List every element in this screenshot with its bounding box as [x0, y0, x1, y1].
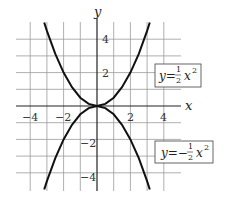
equation-label-negative: y=− 1 2 x 2 — [155, 141, 213, 163]
svg-text:2: 2 — [188, 153, 193, 162]
svg-text:x: x — [184, 69, 191, 83]
y-tick-label: 4 — [102, 33, 109, 46]
y-tick-label: 2 — [102, 67, 109, 80]
parabola-graph: x y −4 −2 2 4 4 2 −2 −4 y= 1 2 x 2 y=− 1… — [0, 0, 230, 206]
y-tick-label: −2 — [80, 137, 96, 150]
svg-text:2: 2 — [176, 76, 181, 85]
x-tick-label: −2 — [55, 111, 71, 124]
svg-text:x: x — [196, 146, 203, 160]
x-tick-label: 2 — [127, 111, 134, 124]
svg-text:2: 2 — [204, 143, 209, 152]
svg-text:1: 1 — [176, 65, 181, 74]
x-axis-label: x — [185, 98, 193, 113]
svg-text:2: 2 — [192, 66, 197, 75]
svg-text:1: 1 — [188, 142, 193, 151]
equation-label-positive: y= 1 2 x 2 — [155, 64, 201, 87]
svg-text:y=−: y=− — [160, 146, 188, 160]
x-tick-label: −4 — [22, 111, 38, 124]
svg-text:y=: y= — [158, 69, 176, 83]
y-tick-label: −4 — [80, 171, 96, 184]
y-axis-label: y — [93, 4, 102, 19]
x-tick-label: 4 — [160, 111, 167, 124]
